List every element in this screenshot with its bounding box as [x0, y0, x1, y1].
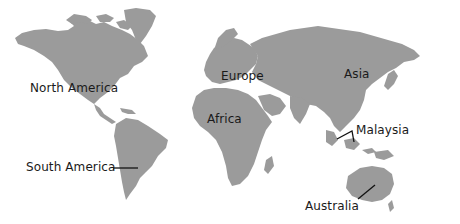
landmass-new-zealand	[388, 200, 394, 212]
landmass-australia	[346, 166, 394, 202]
label-asia: Asia	[344, 68, 370, 80]
label-north-america: North America	[30, 82, 118, 94]
label-europe: Europe	[221, 70, 264, 82]
landmass-africa	[192, 88, 272, 186]
landmass-madagascar	[264, 156, 274, 174]
landmass-south-america	[114, 118, 168, 200]
label-australia: Australia	[305, 200, 359, 212]
label-south-america: South America	[26, 161, 116, 173]
label-africa: Africa	[207, 113, 242, 125]
label-malaysia: Malaysia	[356, 124, 409, 136]
